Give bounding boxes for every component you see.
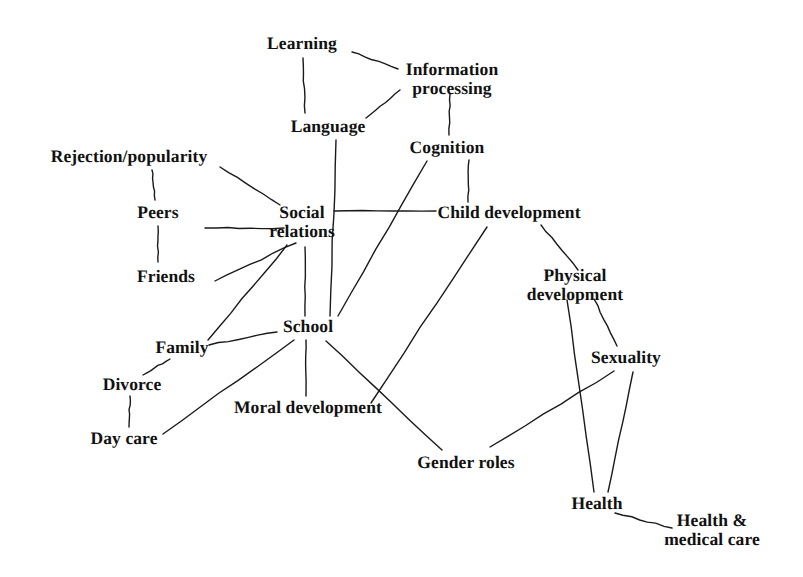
edge-social-to-school — [305, 247, 306, 316]
edge-cognition-to-child — [468, 160, 469, 202]
node-gender: Gender roles — [417, 453, 514, 473]
node-school: School — [283, 317, 333, 337]
node-friends: Friends — [137, 267, 195, 287]
edge-rejection-to-peers — [152, 170, 155, 200]
edge-child-to-moral — [371, 227, 487, 403]
node-social: Social relations — [269, 203, 335, 242]
node-physical: Physical development — [527, 266, 623, 305]
edge-divorce-to-daycare — [129, 396, 130, 427]
edge-learning-to-information — [352, 52, 398, 69]
edge-child-to-physical — [541, 225, 578, 270]
node-information: Information processing — [406, 60, 499, 99]
edge-cognition-to-school — [338, 161, 427, 316]
edge-social-to-child — [334, 210, 436, 211]
edge-layer — [0, 0, 803, 577]
edge-social-to-family — [208, 245, 287, 340]
node-family: Family — [155, 338, 208, 358]
node-health: Health — [571, 494, 622, 514]
edge-learning-to-language — [303, 58, 305, 113]
edge-physical-to-health — [567, 300, 594, 492]
node-rejection: Rejection/popularity — [51, 147, 208, 167]
edge-family-to-divorce — [143, 359, 170, 375]
node-peers: Peers — [137, 203, 178, 223]
node-divorce: Divorce — [103, 375, 162, 395]
node-daycare: Day care — [90, 429, 157, 449]
node-moral: Moral development — [234, 398, 382, 418]
node-sexuality: Sexuality — [591, 348, 661, 368]
edge-rejection-to-social — [220, 167, 280, 205]
node-learning: Learning — [267, 34, 337, 54]
node-cognition: Cognition — [410, 138, 485, 158]
edge-physical-to-sexuality — [594, 299, 617, 346]
edge-school-to-gender — [326, 341, 442, 450]
edge-peers-to-friends — [158, 226, 159, 262]
node-language: Language — [291, 117, 366, 137]
edge-sexuality-to-health — [608, 372, 633, 492]
edge-family-to-school — [209, 332, 277, 345]
edge-information-to-cognition — [449, 94, 450, 135]
concept-map-canvas: LearningInformation processingLanguageCo… — [0, 0, 803, 577]
node-healthcare: Health & medical care — [664, 511, 760, 550]
node-child: Child development — [437, 203, 580, 223]
edge-language-to-information — [366, 90, 400, 118]
edge-school-to-moral — [306, 340, 307, 396]
edge-sexuality-to-gender — [490, 371, 614, 447]
